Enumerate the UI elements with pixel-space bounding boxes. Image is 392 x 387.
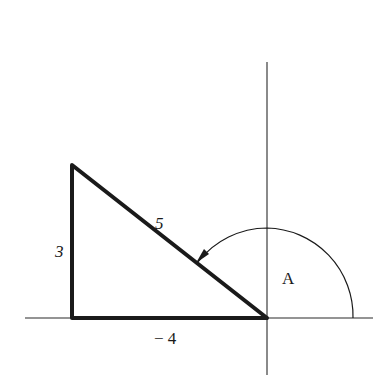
triangle [72,165,267,318]
side-label-hypotenuse: 5 [155,214,164,233]
side-label-vertical: 3 [54,242,64,261]
angle-label: A [282,269,295,288]
diagram-figure: 3 5 − 4 A [0,0,392,387]
arrowhead-icon [196,249,209,263]
side-label-horizontal: − 4 [154,329,177,348]
angle-arc [198,228,353,318]
